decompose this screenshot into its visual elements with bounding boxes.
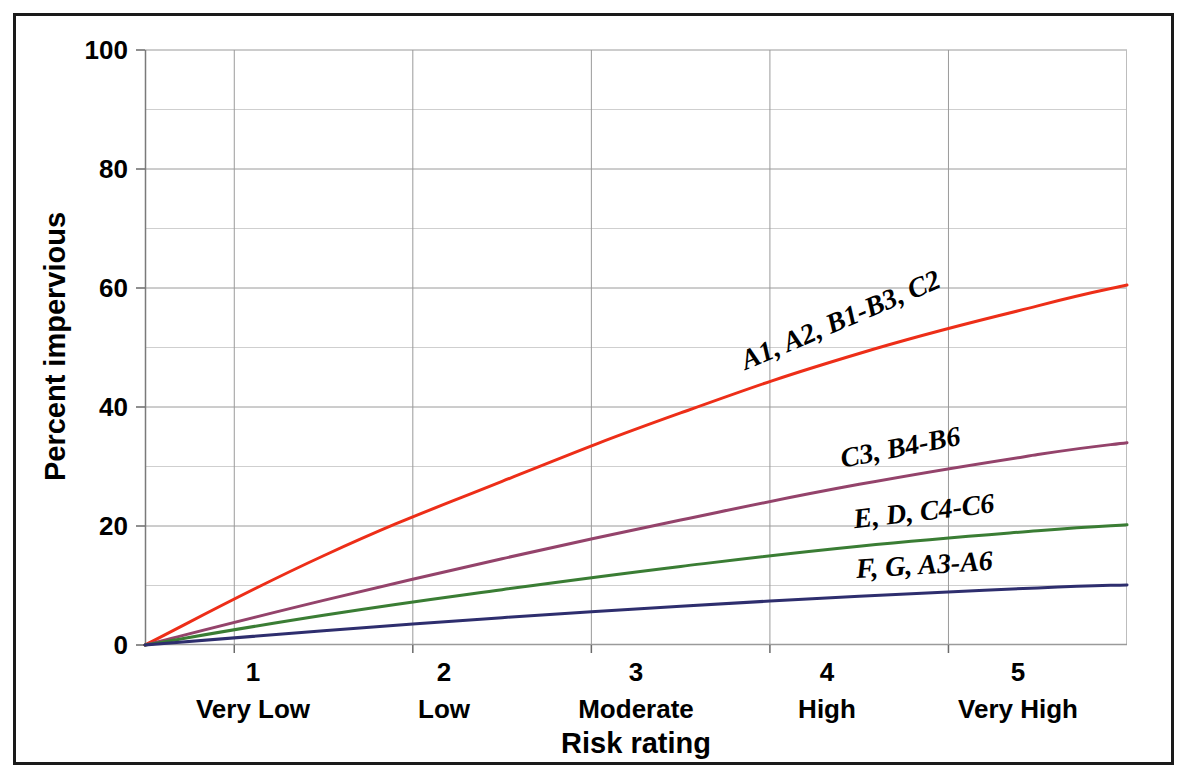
y-tick-40: 40 [8, 392, 128, 423]
series-line-2 [145, 525, 1127, 645]
x-tick-category-2: Low [344, 689, 544, 729]
series-line-1 [145, 443, 1127, 645]
x-axis-title: Risk rating [145, 727, 1127, 760]
x-tick-category-1: Very Low [153, 689, 353, 729]
plot-area: A1, A2, B1-B3, C2C3, B4-B6E, D, C4-C6F, … [145, 50, 1127, 645]
x-tick-number-4: 4 [727, 655, 927, 689]
gridlines-major [145, 50, 1127, 526]
x-tick-number-1: 1 [153, 655, 353, 689]
y-tick-0: 0 [8, 630, 128, 661]
y-axis-tick-labels: 100 80 60 40 20 0 [0, 0, 128, 784]
x-tick-3: 3 Moderate [536, 655, 736, 729]
x-tick-category-3: Moderate [536, 689, 736, 729]
x-tick-2: 2 Low [344, 655, 544, 729]
x-tick-number-3: 3 [536, 655, 736, 689]
x-tick-5: 5 Very High [918, 655, 1118, 729]
x-tick-4: 4 High [727, 655, 927, 729]
y-tick-80: 80 [8, 154, 128, 185]
y-tick-100: 100 [8, 35, 128, 66]
series-lines [145, 285, 1127, 645]
series-line-3 [145, 585, 1127, 645]
y-tick-60: 60 [8, 273, 128, 304]
x-tick-1: 1 Very Low [153, 655, 353, 729]
chart-figure: Percent impervious 100 80 60 40 20 0 1 V… [0, 0, 1190, 784]
x-tick-number-2: 2 [344, 655, 544, 689]
y-tick-20: 20 [8, 511, 128, 542]
x-tick-category-4: High [727, 689, 927, 729]
x-tick-category-5: Very High [918, 689, 1118, 729]
x-tick-number-5: 5 [918, 655, 1118, 689]
